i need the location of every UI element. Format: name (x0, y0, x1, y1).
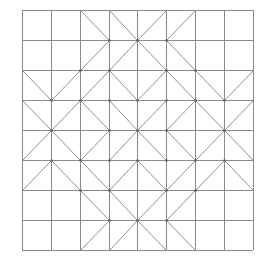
vertex-dot (136, 159, 139, 162)
vertex-dot (223, 99, 226, 102)
vertex-dot (165, 39, 168, 42)
diagonal-line (23, 131, 52, 161)
diagonal-line (81, 191, 110, 221)
diagonal-line (81, 101, 110, 131)
vertex-dot (136, 219, 139, 222)
vertex-dot (108, 129, 111, 132)
diagonal-line (110, 161, 138, 191)
diagonal-line (138, 131, 167, 161)
tiling-pattern-diagram (0, 0, 267, 270)
diagonal-line (52, 101, 81, 131)
diagonal-line (138, 191, 167, 221)
diagonal-line (196, 101, 225, 131)
vertex-dot (194, 69, 197, 72)
diagonal-line (138, 101, 167, 131)
diagonal-line (167, 221, 196, 251)
diagonal-line (167, 161, 196, 191)
diagonal-line (23, 71, 52, 101)
diagonal-line (167, 11, 196, 41)
vertex-dot (165, 129, 168, 132)
vertex-dot (108, 189, 111, 192)
vertex-dot (50, 159, 53, 162)
vertex-dot (136, 39, 139, 42)
vertex-dot (136, 129, 139, 132)
vertex-dot (165, 99, 168, 102)
vertex-dot (108, 39, 111, 42)
vertex-dot (108, 159, 111, 162)
vertex-dot (50, 99, 53, 102)
diagonal-line (110, 71, 138, 101)
diagonal-line (138, 41, 167, 71)
diagonal-line (225, 101, 254, 131)
diagonal-line (23, 101, 52, 131)
diagonal-line (52, 71, 81, 101)
vertex-dot (79, 99, 82, 102)
diagonal-line (167, 71, 196, 101)
diagonal-line (196, 131, 225, 161)
vertex-dot (108, 219, 111, 222)
diagonal-line (81, 161, 110, 191)
diagonal-line (167, 101, 196, 131)
diagonal-line (23, 161, 52, 191)
diagonal-line (81, 41, 110, 71)
vertex-dot (165, 69, 168, 72)
diagonal-line (225, 71, 254, 101)
diagonal-line (138, 11, 167, 41)
diagonal-line (81, 131, 110, 161)
diagonal-line (167, 41, 196, 71)
vertex-dot (165, 219, 168, 222)
diagonal-line (110, 41, 138, 71)
vertex-dot (165, 189, 168, 192)
diagonal-line (110, 11, 138, 41)
diagonal-line (52, 161, 81, 191)
diagonal-line (81, 71, 110, 101)
diagonal-line (196, 161, 225, 191)
vertex-dot (50, 129, 53, 132)
diagonal-line (110, 101, 138, 131)
diagonal-line (81, 221, 110, 251)
vertex-dot (108, 69, 111, 72)
diagonal-line (110, 191, 138, 221)
diagonal-line (138, 161, 167, 191)
diagonal-line (81, 11, 110, 41)
vertex-dot (165, 159, 168, 162)
diagonal-line (52, 131, 81, 161)
vertex-dot (79, 159, 82, 162)
vertex-dot (194, 99, 197, 102)
diagonal-line (225, 161, 254, 191)
diagonal-line (225, 131, 254, 161)
diagonal-line (167, 131, 196, 161)
vertex-dot (223, 159, 226, 162)
vertex-dot (194, 189, 197, 192)
vertex-dot (79, 69, 82, 72)
vertex-dot (108, 99, 111, 102)
vertex-dot (223, 129, 226, 132)
vertex-dot (194, 159, 197, 162)
diagonal-line (110, 221, 138, 251)
diagonal-line (110, 131, 138, 161)
diagonal-line (138, 71, 167, 101)
vertex-dot (79, 189, 82, 192)
diagonal-line (167, 191, 196, 221)
diagonal-line (196, 71, 225, 101)
diagonal-line (138, 221, 167, 251)
vertex-dot (136, 99, 139, 102)
